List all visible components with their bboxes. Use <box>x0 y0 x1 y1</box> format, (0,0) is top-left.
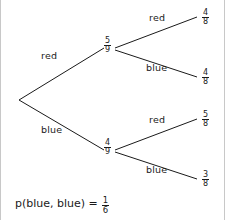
conclusion-numerator: 1 <box>102 196 109 205</box>
branch-label-blue-blue: blue <box>146 164 167 175</box>
branch-label-red-red: red <box>149 12 165 23</box>
branch-label-red-blue: blue <box>146 62 167 73</box>
leaf-rr-denominator: 8 <box>202 17 209 26</box>
node-probability-red-denominator: 9 <box>104 45 111 54</box>
node-probability-red-5-9: 5 9 <box>104 37 111 54</box>
leaf-rr-numerator: 4 <box>202 9 209 17</box>
node-probability-blue-denominator: 9 <box>104 147 111 156</box>
leaf-probability-blue-blue-3-8: 3 8 <box>202 171 209 188</box>
conclusion-result-fraction: 1 6 <box>102 196 109 214</box>
leaf-probability-blue-red-5-8: 5 8 <box>202 111 209 128</box>
node-probability-blue-4-9: 4 9 <box>104 139 111 156</box>
leaf-probability-red-blue-4-8: 4 8 <box>202 69 209 86</box>
leaf-probability-red-red-4-8: 4 8 <box>202 9 209 26</box>
tree-branch-lines <box>1 0 225 220</box>
leaf-br-numerator: 5 <box>202 111 209 119</box>
leaf-bb-numerator: 3 <box>202 171 209 179</box>
leaf-rb-numerator: 4 <box>202 69 209 77</box>
node-probability-blue-numerator: 4 <box>104 139 111 147</box>
leaf-rb-denominator: 8 <box>202 77 209 86</box>
branch-line-root-red <box>19 48 104 100</box>
node-probability-red-numerator: 5 <box>104 37 111 45</box>
probability-tree-diagram: red blue 5 9 4 9 red blue red blue 4 8 4… <box>0 0 225 220</box>
branch-label-blue-stage1: blue <box>41 124 62 135</box>
leaf-br-denominator: 8 <box>202 119 209 128</box>
conclusion-equation: p(blue, blue) = 1 6 <box>15 197 109 214</box>
branch-label-blue-red: red <box>149 114 165 125</box>
branch-label-red-stage1: red <box>41 50 57 61</box>
conclusion-denominator: 6 <box>102 205 109 215</box>
leaf-bb-denominator: 8 <box>202 179 209 188</box>
conclusion-text: p(blue, blue) = <box>15 197 98 211</box>
